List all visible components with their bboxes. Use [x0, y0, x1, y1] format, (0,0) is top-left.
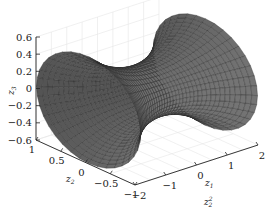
z1-tick-label: 2: [259, 150, 265, 161]
surface-patch: [215, 95, 220, 101]
surface-patch: [240, 87, 246, 96]
surface-patch: [69, 81, 74, 87]
surface-patch: [78, 87, 83, 93]
surface-patch: [194, 96, 198, 101]
surface-patch: [96, 81, 100, 86]
surface-plot: 0.60.40.20−0.2−0.4−0.610.50−0.5−1−2−1012…: [0, 0, 269, 207]
z3-tick-label: −0.2: [8, 100, 32, 111]
surface-patch: [211, 89, 216, 95]
z3-tick-label: −0.4: [8, 117, 32, 128]
surface-patch: [48, 87, 54, 96]
surface-patch: [183, 93, 187, 98]
z1-tick-label: 0: [197, 170, 203, 181]
surface-patch: [100, 85, 104, 91]
surface-patch: [64, 81, 69, 88]
surface-patch: [37, 86, 44, 96]
surface-patch: [37, 77, 44, 86]
surface-patch: [225, 95, 231, 102]
surface-patch: [225, 87, 231, 94]
surface-patch: [48, 79, 54, 87]
surface-patch: [59, 87, 65, 95]
surface-patch: [251, 86, 258, 96]
surface-patch: [220, 95, 225, 101]
z3-tick-label: 0: [26, 83, 32, 94]
z3-tick-label: 0.6: [16, 32, 32, 43]
surface-patch: [42, 78, 48, 87]
surface-patch: [183, 98, 187, 103]
surface-patch: [190, 97, 194, 102]
footer-label: z22: [203, 195, 213, 207]
surface-patch: [74, 87, 79, 94]
surface-patch: [173, 100, 177, 105]
surface-patch: [230, 95, 236, 102]
surface-patch: [78, 81, 83, 87]
surface-patch: [246, 95, 252, 104]
surface-patch: [194, 91, 198, 97]
surface-patch: [230, 87, 236, 95]
z1-tick-label: 1: [228, 160, 234, 171]
z2-tick-label: −0.5: [94, 178, 118, 189]
surface-mesh: [37, 14, 258, 168]
surface-patch: [240, 95, 246, 103]
surface-patch: [179, 94, 183, 99]
surface-patch: [186, 97, 190, 102]
surface-patch: [198, 96, 203, 101]
surface-patch: [186, 92, 190, 97]
surface-patch: [211, 95, 216, 101]
surface-patch: [42, 87, 48, 96]
z2-axis-label: z2: [65, 174, 75, 185]
surface-patch: [92, 81, 97, 86]
surface-patch: [104, 84, 108, 89]
surface-patch: [92, 86, 97, 92]
surface-patch: [246, 86, 252, 95]
surface-patch: [235, 95, 241, 103]
surface-patch: [59, 80, 65, 87]
surface-patch: [198, 90, 203, 96]
surface-patch: [96, 85, 100, 91]
surface-patch: [235, 87, 241, 95]
surface-patch: [87, 86, 92, 92]
surface-patch: [87, 81, 92, 86]
surface-patch: [64, 87, 69, 94]
surface-patch: [190, 92, 194, 98]
surface-patch: [206, 89, 211, 95]
surface-patch: [53, 80, 59, 88]
surface-patch: [100, 81, 104, 86]
z1-axis-label: z1: [204, 178, 214, 189]
surface-patch: [215, 88, 220, 95]
surface-patch: [202, 95, 207, 100]
surface-patch: [69, 87, 74, 94]
z3-tick-label: 0.2: [16, 66, 32, 77]
surface-patch: [53, 87, 59, 95]
surface-patch: [251, 95, 258, 104]
z1-tick-label: −2: [132, 190, 147, 201]
surface-patch: [202, 90, 207, 96]
z3-tick-label: 0.4: [16, 49, 32, 60]
z2-tick-label: 1: [29, 144, 35, 155]
surface-patch: [206, 95, 211, 101]
z1-tick-label: −1: [162, 180, 177, 191]
surface-patch: [74, 81, 79, 87]
surface-patch: [220, 88, 225, 95]
z2-tick-label: 0.5: [49, 155, 65, 166]
z2-tick-label: 0: [78, 167, 84, 178]
z3-axis-label: z3: [6, 86, 17, 96]
surface-patch: [83, 87, 88, 93]
surface-patch: [83, 81, 88, 87]
